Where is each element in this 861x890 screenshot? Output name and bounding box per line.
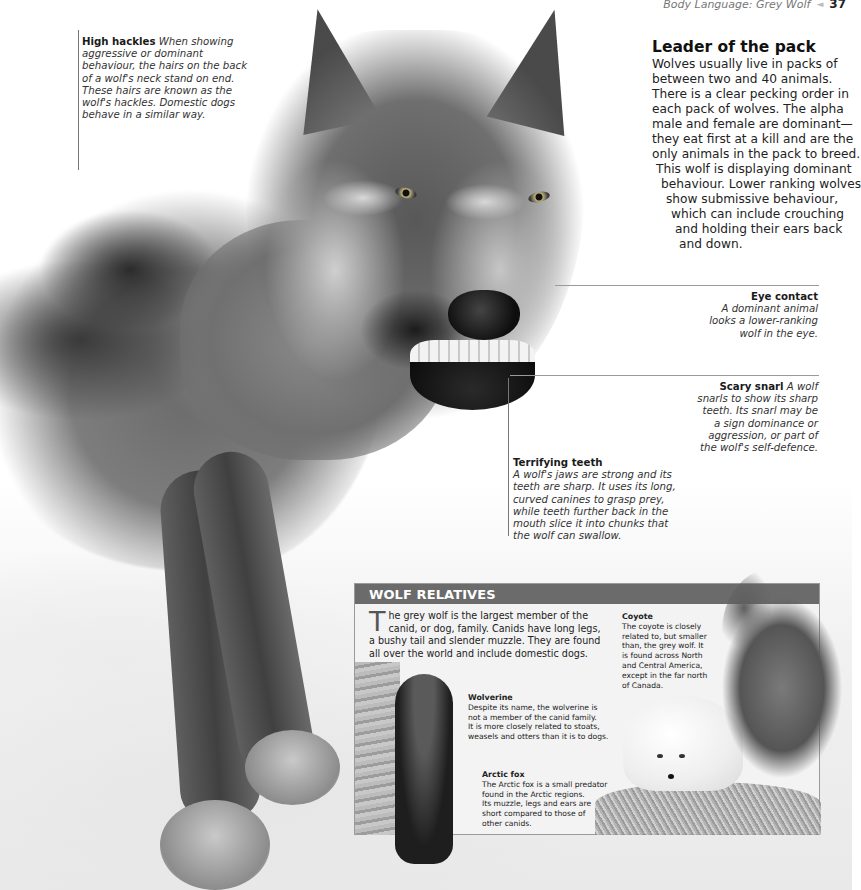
relative-line: of Canada. bbox=[622, 681, 722, 691]
wolf-nose bbox=[448, 290, 520, 340]
body-line: only animals in the pack to breed. bbox=[652, 147, 861, 162]
relative-name: Arctic fox bbox=[482, 770, 622, 780]
section-heading-leader: Leader of the pack bbox=[652, 38, 816, 56]
relative-line: The Arctic fox is a small predator bbox=[482, 780, 622, 790]
relative-name: Wolverine bbox=[468, 693, 638, 703]
caption-scary-snarl: Scary snarl A wolf snarls to show its sh… bbox=[618, 381, 818, 454]
relative-line: Despite its name, the wolverine is bbox=[468, 703, 638, 713]
relative-line: related to, but smaller bbox=[622, 632, 722, 642]
caption-line: wolf's hackles. Domestic dogs bbox=[82, 97, 267, 109]
intro-text: he grey wolf is the largest member of th… bbox=[369, 610, 600, 659]
leader-line-hackles bbox=[78, 30, 79, 170]
caption-line: looks a lower-ranking bbox=[618, 315, 818, 327]
caption-line: a sign dominance or bbox=[618, 418, 818, 430]
caption-line: behaviour, the hairs on the back bbox=[82, 60, 267, 72]
leader-body-text: Wolves usually live in packs of between … bbox=[652, 57, 861, 252]
fox-nose bbox=[668, 774, 674, 779]
body-line: male and female are dominant— bbox=[652, 117, 861, 132]
body-line: which can include crouching bbox=[671, 207, 861, 222]
caption-line: teeth are sharp. It uses its long, bbox=[513, 481, 713, 493]
relative-line: other canids. bbox=[482, 819, 622, 829]
body-line: behaviour. Lower ranking wolves bbox=[661, 177, 861, 192]
caption-line: snarls to show its sharp bbox=[618, 393, 818, 405]
relative-line: weasels and otters than it is to dogs. bbox=[468, 732, 638, 742]
caption-line: A wolf's jaws are strong and its bbox=[513, 469, 713, 481]
fox-eye-right bbox=[679, 754, 685, 758]
panel-intro: T he grey wolf is the largest member of … bbox=[369, 610, 605, 660]
relative-line: The coyote is closely bbox=[622, 622, 722, 632]
caption-line: A dominant animal bbox=[618, 303, 818, 315]
caption-line: wolf in the eye. bbox=[618, 328, 818, 340]
relative-line: found in the Arctic regions. bbox=[482, 790, 622, 800]
body-line: between two and 40 animals. bbox=[652, 72, 861, 87]
wolf-paw-left bbox=[160, 800, 270, 890]
relative-line: It is more closely related to stoats, bbox=[468, 722, 638, 732]
caption-title: Eye contact bbox=[618, 291, 818, 303]
caption-line: These hairs are known as the bbox=[82, 85, 267, 97]
body-line: they eat first at a kill and are the bbox=[652, 132, 861, 147]
leader-line-eye-contact bbox=[555, 285, 819, 286]
body-line: and holding their ears back bbox=[675, 222, 861, 237]
relative-name: Coyote bbox=[622, 612, 722, 622]
caption-high-hackles: High hackles When showing aggressive or … bbox=[82, 36, 267, 121]
caption-line: the wolf can swallow. bbox=[513, 530, 713, 542]
caption-line: the wolf's self-defence. bbox=[618, 442, 818, 454]
caption-line: aggressive or dominant bbox=[82, 48, 267, 60]
leader-line-scary-snarl bbox=[510, 375, 819, 376]
wolf-paw-right bbox=[245, 730, 340, 805]
caption-line: of a wolf's neck stand on end. bbox=[82, 73, 267, 85]
body-line: show submissive behaviour, bbox=[666, 192, 861, 207]
relative-line: is found across North bbox=[622, 651, 722, 661]
body-line: This wolf is displaying dominant bbox=[656, 162, 861, 177]
caption-line: aggression, or part of bbox=[618, 430, 818, 442]
caption-body-first: A wolf bbox=[787, 381, 818, 392]
relative-entry-arctic-fox: Arctic fox The Arctic fox is a small pre… bbox=[482, 770, 622, 829]
body-line: There is a clear pecking order in bbox=[652, 87, 861, 102]
relative-line: Its muzzle, legs and ears are bbox=[482, 799, 622, 809]
caption-line: curved canines to grasp prey, bbox=[513, 494, 713, 506]
caption-eye-contact: Eye contact A dominant animal looks a lo… bbox=[618, 291, 818, 340]
howling-coyote-photo bbox=[722, 568, 852, 778]
relative-line: and Central America, bbox=[622, 661, 722, 671]
caption-line: mouth slice it into chunks that bbox=[513, 518, 713, 530]
caption-line: behave in a similar way. bbox=[82, 109, 267, 121]
caption-line: while teeth further back in the bbox=[513, 506, 713, 518]
body-line: Wolves usually live in packs of bbox=[652, 57, 861, 72]
page-number: 37 bbox=[829, 0, 846, 11]
caption-body-first: When showing bbox=[159, 36, 234, 47]
caption-line: teeth. Its snarl may be bbox=[618, 405, 818, 417]
drop-cap: T bbox=[369, 611, 386, 633]
relative-line: not a member of the canid family. bbox=[468, 713, 638, 723]
wolverine-photo bbox=[395, 674, 453, 864]
tree-trunk-photo bbox=[355, 662, 400, 835]
running-header: Body Language: Grey Wolf ◄ 37 bbox=[663, 0, 846, 11]
relative-line: short compared to those of bbox=[482, 809, 622, 819]
body-line: each pack of wolves. The alpha bbox=[652, 102, 861, 117]
arrow-left-icon: ◄ bbox=[816, 0, 823, 9]
fox-eye-left bbox=[657, 754, 663, 758]
caption-title: Terrifying teeth bbox=[513, 457, 713, 469]
caption-title: High hackles bbox=[82, 36, 156, 47]
caption-terrifying-teeth: Terrifying teeth A wolf's jaws are stron… bbox=[513, 457, 713, 542]
body-line: and down. bbox=[679, 237, 861, 252]
caption-title: Scary snarl bbox=[719, 381, 783, 392]
relative-line: except in the far north bbox=[622, 671, 722, 681]
leader-line-teeth bbox=[508, 378, 509, 536]
relative-entry-coyote: Coyote The coyote is closely related to,… bbox=[622, 612, 722, 690]
relative-entry-wolverine: Wolverine Despite its name, the wolverin… bbox=[468, 693, 638, 742]
section-title: Body Language: Grey Wolf bbox=[663, 0, 810, 11]
relative-line: than, the grey wolf. It bbox=[622, 641, 722, 651]
